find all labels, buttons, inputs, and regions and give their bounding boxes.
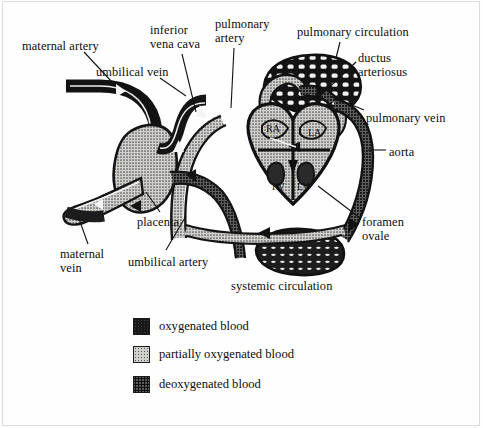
label-placenta: placenta (137, 216, 179, 230)
leader-foramen-ovale (318, 186, 360, 218)
placenta-organ (63, 125, 176, 225)
legend-label-deoxygenated: deoxygenated blood (159, 377, 261, 392)
chamber-label-la: LA (308, 127, 322, 138)
label-pulmonary-artery: pulmonary artery (215, 18, 270, 45)
label-maternal-vein: maternal vein (60, 248, 104, 275)
label-umbilical-vein: umbilical vein (96, 66, 169, 80)
label-umbilical-artery: umbilical artery (128, 256, 208, 270)
label-systemic-circulation: systemic circulation (231, 280, 332, 294)
maternal-vein-vessel (66, 212, 104, 217)
legend-item-deoxygenated: deoxygenated blood (133, 376, 261, 393)
legend-item-oxygenated: oxygenated blood (133, 318, 249, 335)
leader-umbilical-vein (160, 78, 186, 96)
label-foramen-ovale: foramen ovale (362, 216, 404, 243)
chamber-label-rv: RV (272, 181, 286, 192)
label-pulmonary-vein: pulmonary vein (366, 112, 446, 126)
leader-pulmonary-circulation (336, 42, 340, 58)
label-inferior-vena-cava: inferior vena cava (150, 24, 200, 51)
fetal-circulation-figure: RA LA RV LV maternal artery inferior ven… (0, 0, 483, 428)
legend-label-oxygenated: oxygenated blood (159, 319, 249, 334)
fetal-circulation-illustration: RA LA RV LV (0, 0, 483, 428)
legend-swatch-partially-oxygenated (133, 346, 150, 363)
legend-swatch-oxygenated (133, 318, 150, 335)
label-pulmonary-circulation: pulmonary circulation (297, 26, 409, 40)
label-maternal-artery: maternal artery (22, 40, 99, 54)
label-aorta: aorta (389, 146, 414, 160)
legend-item-partially-oxygenated: partially oxygenated blood (133, 346, 294, 363)
fetal-heart (248, 104, 339, 204)
legend-label-partially-oxygenated: partially oxygenated blood (159, 347, 294, 362)
chamber-label-lv: LV (297, 181, 310, 192)
label-ductus-arteriosus: ductus arteriosus (358, 52, 407, 79)
legend-swatch-deoxygenated (133, 376, 150, 393)
chamber-label-ra: RA (266, 123, 281, 134)
leader-pulmonary-artery (231, 48, 234, 108)
